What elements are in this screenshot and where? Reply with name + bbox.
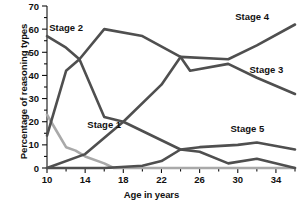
x-tick-label: 34: [271, 174, 282, 185]
series-line-stage-4: [47, 25, 295, 168]
y-tick-label: 60: [28, 24, 39, 35]
y-tick-label: 70: [28, 1, 39, 12]
y-tick-label: 20: [28, 116, 39, 127]
series-line-stage-2: [47, 36, 295, 168]
y-axis: 010203040506070: [28, 1, 47, 174]
series-label-stage-1: Stage 1: [87, 119, 122, 130]
x-axis-title: Age in years: [0, 189, 303, 200]
y-tick-label: 40: [28, 70, 39, 81]
y-tick-label: 30: [28, 93, 39, 104]
x-tick-label: 22: [156, 174, 167, 185]
series-label-stage-3: Stage 3: [249, 64, 283, 75]
series-label-stage-2: Stage 2: [49, 22, 83, 33]
data-series-group: [47, 25, 295, 168]
x-tick-label: 18: [118, 174, 129, 185]
chart-plot-area: 010203040506070 10141822263034 Stage 1St…: [0, 0, 303, 207]
y-tick-label: 10: [28, 139, 39, 150]
x-axis: 10141822263034: [42, 168, 295, 185]
line-chart: 010203040506070 10141822263034 Stage 1St…: [0, 0, 303, 207]
y-axis-title: Percentage of reasoning types: [18, 12, 29, 172]
y-tick-label: 0: [34, 163, 39, 174]
series-label-stage-4: Stage 4: [235, 11, 270, 22]
y-tick-label: 50: [28, 47, 39, 58]
x-tick-label: 14: [80, 174, 91, 185]
x-tick-label: 26: [194, 174, 205, 185]
x-tick-label: 30: [232, 174, 243, 185]
series-label-stage-5: Stage 5: [230, 123, 265, 134]
x-tick-label: 10: [42, 174, 53, 185]
